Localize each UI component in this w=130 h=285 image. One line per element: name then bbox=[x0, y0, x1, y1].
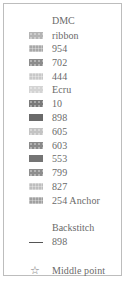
color-swatch-icon bbox=[29, 73, 43, 80]
thread-item: 898 bbox=[4, 112, 121, 124]
thread-item: 954 bbox=[4, 43, 121, 55]
thread-item: ribbon bbox=[4, 30, 121, 42]
thread-label: 444 bbox=[52, 71, 67, 83]
color-swatch-icon bbox=[29, 142, 43, 149]
thread-item: 603 bbox=[4, 140, 121, 152]
dmc-heading: DMC bbox=[52, 15, 75, 27]
legend-box: DMC ribbon954702444Ecru10898605603553799… bbox=[3, 3, 122, 276]
thread-item: 254 Anchor bbox=[4, 195, 121, 207]
backstitch-line-icon bbox=[29, 242, 43, 243]
color-swatch-icon bbox=[29, 86, 43, 93]
color-swatch-icon bbox=[29, 169, 43, 176]
thread-item: 702 bbox=[4, 57, 121, 69]
thread-label: 702 bbox=[52, 57, 67, 69]
thread-item: 553 bbox=[4, 153, 121, 165]
star-outline-icon: ☆ bbox=[30, 264, 40, 276]
thread-label: ribbon bbox=[52, 30, 79, 42]
color-swatch-icon bbox=[29, 183, 43, 190]
thread-label: 553 bbox=[52, 153, 67, 165]
color-swatch-icon bbox=[29, 59, 43, 66]
thread-label: 10 bbox=[52, 98, 62, 110]
thread-label: 898 bbox=[52, 112, 67, 124]
thread-item: 799 bbox=[4, 167, 121, 179]
backstitch-item: 898 bbox=[4, 236, 121, 248]
thread-label: 605 bbox=[52, 126, 67, 138]
thread-item: Ecru bbox=[4, 84, 121, 96]
color-swatch-icon bbox=[29, 128, 43, 135]
color-swatch-icon bbox=[29, 155, 43, 162]
color-swatch-icon bbox=[29, 114, 43, 121]
thread-label: Ecru bbox=[52, 84, 71, 96]
color-swatch-icon bbox=[29, 100, 43, 107]
thread-label: 799 bbox=[52, 167, 67, 179]
thread-item: 10 bbox=[4, 98, 121, 110]
thread-label: 954 bbox=[52, 43, 67, 55]
thread-item: 605 bbox=[4, 126, 121, 138]
thread-item: 827 bbox=[4, 181, 121, 193]
middle-point-label: Middle point bbox=[52, 265, 105, 277]
backstitch-heading: Backstitch bbox=[52, 222, 94, 234]
backstitch-label: 898 bbox=[52, 236, 67, 248]
color-swatch-icon bbox=[29, 32, 43, 39]
thread-item: 444 bbox=[4, 71, 121, 83]
middle-point-item: ☆ Middle point bbox=[4, 265, 121, 277]
thread-label: 603 bbox=[52, 140, 67, 152]
color-swatch-icon bbox=[29, 197, 43, 204]
color-swatch-icon bbox=[29, 45, 43, 52]
thread-label: 827 bbox=[52, 181, 67, 193]
thread-label: 254 Anchor bbox=[52, 195, 100, 207]
